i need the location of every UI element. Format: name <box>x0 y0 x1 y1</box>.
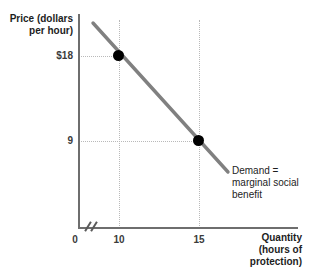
gridline-vertical-q15 <box>199 20 201 228</box>
x-axis <box>78 227 298 229</box>
x-axis-title-line3: protection) <box>198 256 302 268</box>
x-tick-label-0: 0 <box>68 234 82 245</box>
annotation-line2: marginal social <box>232 177 308 189</box>
y-axis <box>78 14 80 229</box>
gridline-horizontal-p9 <box>79 141 200 143</box>
x-tick-label-10: 10 <box>108 234 130 245</box>
data-point-q15-p9 <box>193 135 204 146</box>
demand-curve-annotation: Demand = marginal social benefit <box>232 165 308 201</box>
demand-curve-chart: $18 9 0 10 15 Price (dollars per hour) Q… <box>0 0 310 273</box>
x-axis-title-line1: Quantity <box>198 232 302 244</box>
data-point-q10-p18 <box>113 50 124 61</box>
y-axis-title-line2: per hour) <box>2 25 73 37</box>
y-axis-title-line1: Price (dollars <box>2 13 73 25</box>
y-tick-label-9: 9 <box>44 135 73 146</box>
y-axis-title: Price (dollars per hour) <box>2 13 73 37</box>
x-axis-title-line2: (hours of <box>198 244 302 256</box>
y-tick-label-18: $18 <box>44 50 73 61</box>
annotation-line1: Demand = <box>232 165 308 177</box>
annotation-line3: benefit <box>232 189 308 201</box>
x-axis-title: Quantity (hours of protection) <box>198 232 302 268</box>
